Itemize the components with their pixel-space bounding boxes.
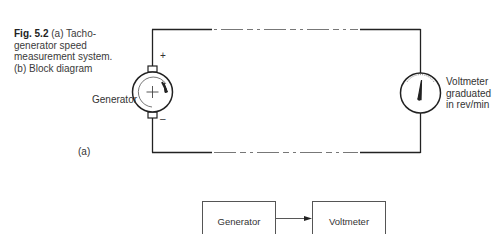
block-voltmeter: Voltmeter [312, 201, 386, 234]
generator-brush-top [148, 66, 157, 72]
part-a-label: (a) [78, 146, 90, 158]
generator-label: Generator [92, 94, 137, 106]
voltmeter-symbol [401, 73, 441, 113]
generator-brush-bottom [148, 112, 157, 118]
block-voltmeter-label: Voltmeter [329, 216, 369, 227]
voltmeter-label-line: Voltmeter [446, 76, 491, 88]
generator-symbol [133, 66, 173, 118]
voltmeter-label: Voltmeter graduated in rev/min [446, 76, 491, 111]
block-generator-label: Generator [218, 216, 261, 227]
circuit-diagram [0, 0, 500, 234]
block-arrow-head-icon [304, 216, 312, 221]
voltmeter-label-line: graduated [446, 88, 491, 100]
minus-terminal-label: – [160, 113, 166, 125]
voltmeter-pivot [418, 97, 422, 101]
voltmeter-label-line: in rev/min [446, 99, 491, 111]
plus-terminal-label: + [160, 50, 166, 62]
block-generator: Generator [202, 201, 276, 234]
